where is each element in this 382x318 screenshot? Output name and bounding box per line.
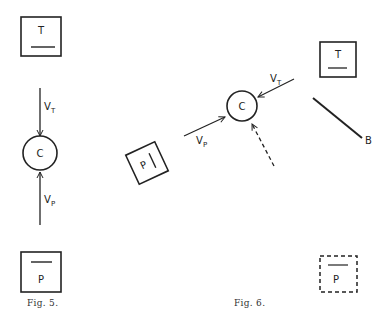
diagram-canvas: T V T C V P P Fig. 5. P V P <box>0 0 382 318</box>
figure-5: T V T C V P P Fig. 5. <box>21 17 61 308</box>
fig6-top-box-label: T <box>334 49 342 60</box>
fig6-vp-label: V <box>196 135 203 146</box>
fig5-circle-label: C <box>37 148 44 159</box>
fig6-circle-c: C <box>227 91 257 121</box>
fig5-bottom-box-label: P <box>38 274 44 285</box>
fig5-top-box: T <box>21 17 61 56</box>
fig5-bottom-box: P <box>21 252 61 292</box>
fig6-rotated-p-box: P <box>126 142 169 185</box>
fig5-circle-c: C <box>23 136 57 170</box>
fig6-vt-label: V <box>270 73 277 84</box>
fig6-arrow-vp <box>184 117 225 136</box>
fig6-b-label: B <box>365 135 372 146</box>
fig6-rotated-box-label: P <box>139 159 149 172</box>
fig6-caption: Fig. 6. <box>234 298 265 308</box>
fig6-top-box: T <box>320 42 356 77</box>
fig5-vp-sub: P <box>51 200 55 208</box>
fig6-dashed-box-label: P <box>333 274 339 285</box>
figure-6: P V P C V T T B P Fig. 6. <box>126 42 372 308</box>
fig5-caption: Fig. 5. <box>27 298 58 308</box>
fig5-top-box-label: T <box>37 25 45 36</box>
fig5-vp-label: V <box>44 194 51 205</box>
fig6-dashed-arrow <box>252 124 274 166</box>
fig5-vt-sub: T <box>50 107 56 115</box>
fig6-b-line <box>313 98 362 138</box>
fig6-vt-sub: T <box>276 79 282 87</box>
fig6-vp-sub: P <box>203 141 207 149</box>
fig6-dashed-p-box: P <box>320 256 357 292</box>
fig6-circle-label: C <box>239 101 246 112</box>
fig5-vt-label: V <box>44 101 51 112</box>
